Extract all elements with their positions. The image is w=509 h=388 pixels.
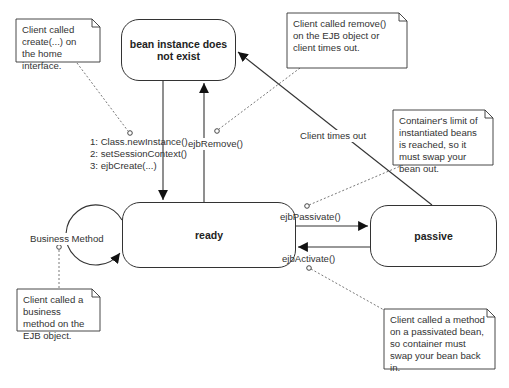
business-note: Client called a business method on the E… (18, 290, 98, 346)
remove-transition-label: ejbRemove() (188, 138, 243, 150)
activate-note: Client called a method on a passivated b… (385, 310, 491, 378)
state-ready: ready (122, 202, 296, 268)
remove-note: Client called remove() on the EJB object… (288, 14, 404, 58)
state-does-not-exist: bean instance does not exist (121, 19, 236, 81)
state-passive: passive (370, 205, 497, 267)
state-label: bean instance does not exist (128, 38, 229, 62)
remove-note-connector (219, 68, 300, 129)
activate-transition-label: ejbActivate() (282, 253, 335, 265)
state-label: passive (414, 230, 453, 242)
activate-note-connector (311, 269, 384, 310)
create-note: Client called create(...) on the home in… (17, 20, 97, 76)
business-method-label: Business Method (30, 233, 104, 245)
passivate-transition-label: ejbPassivate() (280, 211, 341, 223)
timeout-transition-label: Client times out (300, 130, 366, 142)
passivate-note: Container's limit of instantiated beans … (394, 111, 490, 179)
create-transition-label: 1: Class.newInstance() 2: setSessionCont… (90, 136, 188, 172)
state-label: ready (195, 229, 223, 241)
